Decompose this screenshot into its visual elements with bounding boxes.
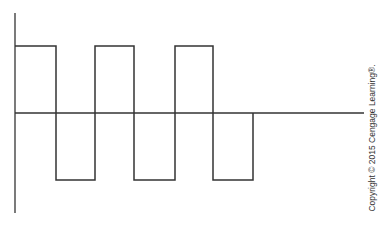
copyright-notice: Copyright © 2015 Cengage Learning®.	[367, 64, 377, 211]
square-wave-diagram	[0, 0, 388, 230]
